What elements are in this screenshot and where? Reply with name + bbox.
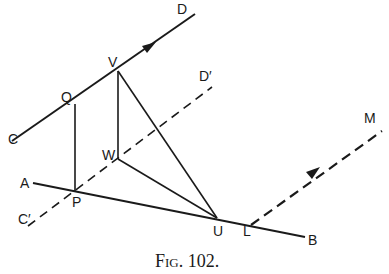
label-p: P bbox=[72, 194, 81, 210]
line-ab bbox=[33, 183, 305, 237]
label-c-prime: C′ bbox=[18, 211, 31, 227]
line-lm bbox=[251, 131, 382, 225]
label-l: L bbox=[243, 223, 251, 239]
label-c: C bbox=[8, 131, 18, 147]
label-b: B bbox=[308, 232, 317, 248]
line-cprime-dprime bbox=[28, 87, 212, 226]
label-v: V bbox=[108, 54, 118, 70]
label-m: M bbox=[364, 110, 376, 126]
figure-102-diagram: D V Q C D′ W A P C′ U L B M Fig. 102. bbox=[0, 0, 389, 274]
segment-vu bbox=[118, 71, 217, 218]
label-d-prime: D′ bbox=[199, 68, 212, 84]
label-d: D bbox=[177, 1, 187, 17]
arrow-icon-cd bbox=[142, 42, 156, 53]
label-a: A bbox=[20, 175, 30, 191]
label-w: W bbox=[102, 147, 116, 163]
label-q: Q bbox=[61, 89, 72, 105]
figure-caption: Fig. 102. bbox=[155, 251, 219, 271]
line-cd bbox=[12, 14, 195, 141]
label-u: U bbox=[213, 223, 223, 239]
